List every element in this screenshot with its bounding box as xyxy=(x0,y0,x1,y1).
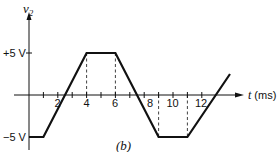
x-tick-label-4: 4 xyxy=(84,97,90,109)
x-tick-label-12: 12 xyxy=(195,97,207,109)
y-axis-label: v2 xyxy=(23,1,34,18)
x-axis-arrow-icon xyxy=(235,93,244,98)
x-tick-label-10: 10 xyxy=(167,97,179,109)
x-tick-label-8: 8 xyxy=(147,97,153,109)
y-label-neg5: −5 V xyxy=(3,131,27,143)
x-axis-label: t(ms) xyxy=(248,88,276,102)
x-tick-label-6: 6 xyxy=(112,97,118,109)
x-tick-label-2: 2 xyxy=(55,97,61,109)
waveform-chart: v2 +5 V −5 V 2 4 6 8 10 12 t(ms) (b) xyxy=(0,0,277,152)
panel-label: (b) xyxy=(116,138,131,152)
y-label-pos5: +5 V xyxy=(3,47,27,59)
